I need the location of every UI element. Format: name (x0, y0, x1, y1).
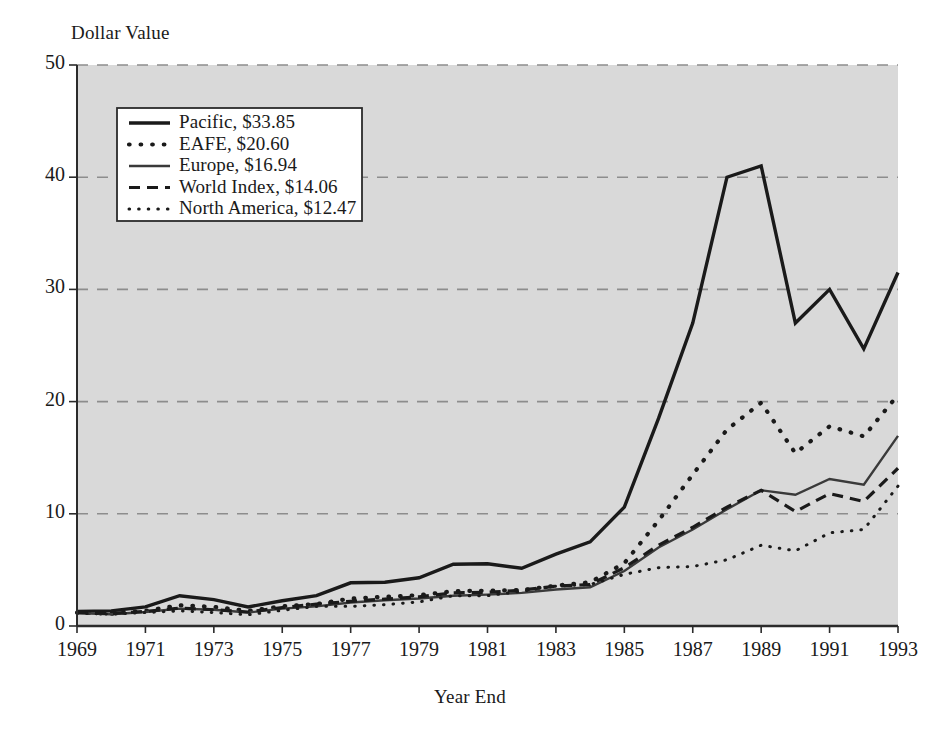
x-tick-label: 1977 (316, 638, 386, 661)
x-tick-label: 1989 (726, 638, 796, 661)
x-tick-label: 1971 (110, 638, 180, 661)
legend-frame (117, 108, 362, 221)
x-tick-label: 1991 (795, 638, 865, 661)
x-tick-label: 1979 (384, 638, 454, 661)
x-tick-label: 1975 (247, 638, 317, 661)
x-tick-label: 1969 (42, 638, 112, 661)
legend-box (117, 108, 362, 221)
x-tick-label: 1993 (863, 638, 933, 661)
x-tick-label: 1973 (179, 638, 249, 661)
plot-area (0, 0, 940, 736)
y-tick-label: 20 (19, 388, 65, 411)
y-tick-label: 40 (19, 163, 65, 186)
y-tick-label: 10 (19, 500, 65, 523)
y-tick-label: 50 (19, 51, 65, 74)
x-tick-label: 1981 (453, 638, 523, 661)
y-tick-label: 0 (19, 612, 65, 635)
x-tick-label: 1987 (658, 638, 728, 661)
chart-container: Dollar Value 01020304050 196919711973197… (0, 0, 940, 736)
x-tick-label: 1985 (589, 638, 659, 661)
x-axis-title: Year End (0, 686, 940, 708)
x-tick-label: 1983 (521, 638, 591, 661)
y-tick-label: 30 (19, 275, 65, 298)
